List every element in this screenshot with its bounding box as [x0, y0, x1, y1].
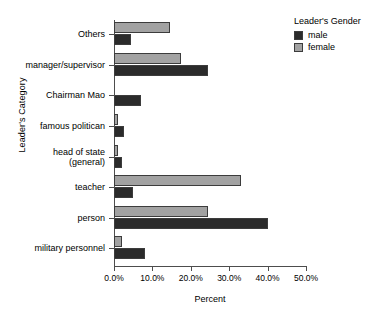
x-axis-tick: [268, 266, 269, 271]
bar-group: [114, 145, 306, 176]
x-axis-tick: [152, 266, 153, 271]
y-axis-tick-label: manager/supervisor: [25, 60, 105, 70]
bar-male: [114, 157, 122, 168]
x-axis-tick: [229, 266, 230, 271]
bar-male: [114, 218, 268, 229]
bar-female: [114, 145, 118, 156]
x-axis-tick-label: 50.0%: [283, 273, 329, 283]
legend-label-male: male: [308, 30, 328, 40]
bar-female: [114, 206, 208, 217]
y-axis-title: Leader's Category: [17, 60, 27, 170]
y-axis-tick-label: Others: [78, 29, 105, 39]
bar-female: [114, 114, 118, 125]
y-axis-tick: [109, 65, 115, 66]
bar-group: [114, 83, 306, 114]
legend-label-female: female: [308, 42, 335, 52]
x-axis-tick: [306, 266, 307, 271]
x-axis-title: Percent: [114, 294, 306, 304]
y-axis-tick: [109, 218, 115, 219]
bar-male: [114, 34, 131, 45]
y-axis-tick-label: Chairman Mao: [46, 90, 105, 100]
bar-group: [114, 206, 306, 237]
legend-swatch-female-icon: [294, 43, 303, 52]
y-axis-tick-label: person: [77, 213, 105, 223]
y-axis-tick: [109, 34, 115, 35]
bar-female: [114, 53, 181, 64]
x-axis-tick: [114, 266, 115, 271]
bar-male: [114, 187, 133, 198]
bar-group: [114, 53, 306, 84]
bar-male: [114, 65, 208, 76]
bar-group: [114, 22, 306, 53]
legend-item-female: female: [294, 42, 361, 52]
y-axis-tick: [109, 126, 115, 127]
bar-female: [114, 22, 170, 33]
legend-swatch-male-icon: [294, 31, 303, 40]
bar-male: [114, 126, 124, 137]
legend-title: Leader's Gender: [294, 16, 361, 26]
y-axis-tick-label: military personnel: [34, 243, 105, 253]
bar-group: [114, 114, 306, 145]
y-axis-tick: [109, 248, 115, 249]
bar-group: [114, 236, 306, 267]
bar-male: [114, 95, 141, 106]
y-axis-tick: [109, 187, 115, 188]
legend: Leader's Gender male female: [294, 16, 361, 54]
x-axis-tick: [191, 266, 192, 271]
y-axis-tick-label: famous politican: [40, 121, 105, 131]
y-axis-tick-label: teacher: [75, 182, 105, 192]
y-axis-tick: [109, 157, 115, 158]
y-axis-tick: [109, 95, 115, 96]
bar-chart: Leader's Category Percent Leader's Gende…: [0, 0, 382, 313]
bar-female: [114, 236, 122, 247]
plot-area: [114, 20, 306, 265]
bar-group: [114, 175, 306, 206]
bar-male: [114, 248, 145, 259]
bar-female: [114, 175, 241, 186]
y-axis-tick-label: head of state (general): [53, 147, 105, 167]
legend-item-male: male: [294, 30, 361, 40]
